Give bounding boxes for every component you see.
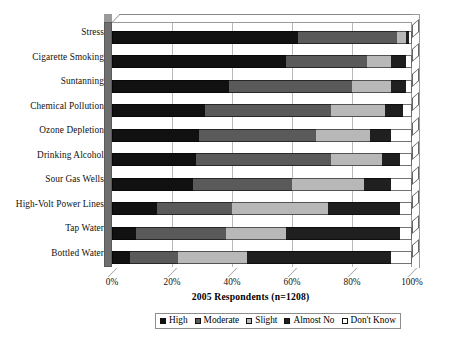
bar-row	[112, 80, 411, 93]
bar-segment	[397, 31, 406, 44]
category-label: Bottled Water	[0, 248, 104, 258]
bar-segment	[205, 104, 331, 117]
bar-segment	[367, 55, 391, 68]
x-axis-tick-label: 80%	[343, 277, 360, 287]
bar-segment	[112, 202, 157, 215]
bar-segment	[391, 80, 406, 93]
bar-segment	[247, 251, 391, 264]
bar-segment	[286, 55, 367, 68]
bar-segment	[391, 129, 412, 142]
category-label: Suntanning	[0, 76, 104, 86]
legend-label: High	[169, 315, 188, 326]
bar-segment	[403, 104, 412, 117]
bar-row	[112, 31, 411, 44]
bar-segment	[286, 227, 400, 240]
legend-swatch-icon	[342, 318, 348, 324]
category-label: Tap Water	[0, 223, 104, 233]
bar-segment	[112, 153, 196, 166]
chart-3d-top-face	[112, 14, 420, 22]
category-label: Cigarette Smoking	[0, 52, 104, 62]
category-axis-labels: StressCigarette SmokingSuntanningChemica…	[0, 21, 108, 267]
bar-segment	[112, 80, 229, 93]
bar-row	[112, 227, 411, 240]
legend-swatch-icon	[160, 318, 166, 324]
bar-segment	[112, 251, 130, 264]
bar-segment	[298, 31, 397, 44]
stacked-bar-chart: StressCigarette SmokingSuntanningChemica…	[0, 0, 467, 350]
bar-segment	[391, 178, 412, 191]
legend-item[interactable]: Slight	[246, 315, 277, 326]
bar-segment	[328, 202, 400, 215]
bar-row	[112, 251, 411, 264]
bar-segment	[130, 251, 178, 264]
bar-segment	[391, 55, 406, 68]
chart-legend: HighModerateSlightAlmost NoDon't Know	[155, 313, 401, 329]
category-label: Ozone Depletion	[0, 125, 104, 135]
bar-segment	[229, 80, 352, 93]
x-axis-tick-label: 20%	[163, 277, 180, 287]
legend-swatch-icon	[195, 318, 201, 324]
bar-segment	[391, 251, 412, 264]
bar-segment	[232, 202, 328, 215]
category-label: Drinking Alcohol	[0, 150, 104, 160]
bar-segment	[352, 80, 391, 93]
bar-row	[112, 129, 411, 142]
bar-segment	[178, 251, 247, 264]
bar-segment	[199, 129, 316, 142]
bar-segment	[157, 202, 232, 215]
bar-row	[112, 202, 411, 215]
legend-item[interactable]: Almost No	[284, 315, 334, 326]
bar-segment	[136, 227, 226, 240]
x-axis-tick-label: 0%	[106, 277, 118, 287]
category-label: Stress	[0, 27, 104, 37]
chart-3d-left-wall	[104, 22, 112, 267]
chart-3d-left-top-corner	[104, 14, 112, 22]
bar-series-container	[112, 23, 411, 267]
legend-label: Don't Know	[351, 315, 396, 326]
x-axis-tick-label: 40%	[223, 277, 240, 287]
x-axis-title-text: 2005 Respondents (n=1208)	[158, 291, 310, 302]
bar-segment	[331, 104, 385, 117]
bar-segment	[400, 227, 412, 240]
bar-row	[112, 178, 411, 191]
chart-3d-floor	[95, 267, 412, 276]
x-axis-tick-label: 60%	[283, 277, 300, 287]
bar-segment	[193, 178, 292, 191]
bar-segment	[112, 55, 286, 68]
bar-segment	[316, 129, 370, 142]
legend-item[interactable]: High	[160, 315, 188, 326]
bar-segment	[112, 227, 136, 240]
x-axis-title: 2005 Respondents (n=1208)	[0, 291, 467, 302]
bar-segment	[292, 178, 364, 191]
bar-segment	[400, 202, 412, 215]
bar-row	[112, 153, 411, 166]
bar-row	[112, 55, 411, 68]
legend-item[interactable]: Moderate	[195, 315, 240, 326]
legend-swatch-icon	[284, 318, 290, 324]
legend-swatch-icon	[246, 318, 252, 324]
category-label: High-Volt Power Lines	[0, 199, 104, 209]
legend-label: Almost No	[293, 315, 334, 326]
bar-segment	[400, 153, 412, 166]
bar-segment	[196, 153, 331, 166]
bar-segment	[226, 227, 286, 240]
bar-segment	[331, 153, 382, 166]
category-label: Sour Gas Wells	[0, 174, 104, 184]
bar-segment	[112, 104, 205, 117]
legend-item[interactable]: Don't Know	[342, 315, 396, 326]
bar-segment	[385, 104, 403, 117]
category-label: Chemical Pollution	[0, 101, 104, 111]
plot-area	[112, 22, 412, 267]
bar-segment	[382, 153, 400, 166]
legend-label: Slight	[255, 315, 277, 326]
bar-segment	[370, 129, 391, 142]
bar-segment	[364, 178, 391, 191]
legend-label: Moderate	[204, 315, 240, 326]
x-axis-ticks: 0%20%40%60%80%100%	[104, 277, 420, 291]
bar-segment	[112, 129, 199, 142]
bar-segment	[112, 178, 193, 191]
bar-segment	[112, 31, 298, 44]
x-axis-tick-label: 100%	[401, 277, 423, 287]
bar-row	[112, 104, 411, 117]
